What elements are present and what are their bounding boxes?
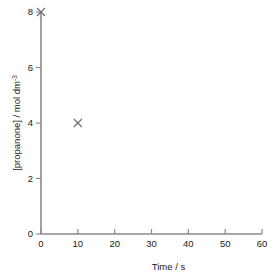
x-tick-label-30: 30 [146, 238, 157, 249]
axes-group [41, 12, 262, 234]
y-tick-label-4: 4 [28, 117, 33, 128]
x-tick-label-50: 50 [220, 238, 231, 249]
axis-titles: Time / s[propanone] / mol dm-3 [11, 75, 186, 272]
y-axis-title: [propanone] / mol dm-3 [11, 75, 22, 171]
x-tick-label-0: 0 [38, 238, 43, 249]
data-point-10-4 [74, 119, 82, 127]
y-tick-label-2: 2 [28, 173, 33, 184]
data-markers [37, 8, 82, 127]
x-axis-title: Time / s [152, 261, 186, 272]
y-tick-label-8: 8 [28, 6, 33, 17]
y-axis-tick-labels: 02468 [28, 6, 33, 239]
x-tick-label-10: 10 [73, 238, 84, 249]
chart-container: 0102030405060 02468 Time / s[propanone] … [0, 0, 276, 276]
y-tick-label-6: 6 [28, 62, 33, 73]
y-tick-label-0: 0 [28, 228, 33, 239]
x-tick-label-60: 60 [257, 238, 268, 249]
x-axis-tick-labels: 0102030405060 [38, 238, 267, 249]
x-tick-label-40: 40 [183, 238, 194, 249]
scatter-plot: 0102030405060 02468 Time / s[propanone] … [0, 0, 276, 276]
x-tick-label-20: 20 [109, 238, 120, 249]
